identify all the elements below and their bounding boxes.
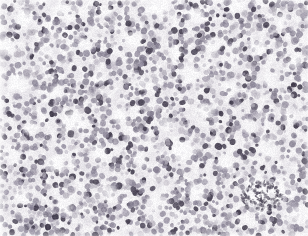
micrograph-viewport	[0, 0, 308, 236]
histopathology-image	[0, 0, 308, 236]
